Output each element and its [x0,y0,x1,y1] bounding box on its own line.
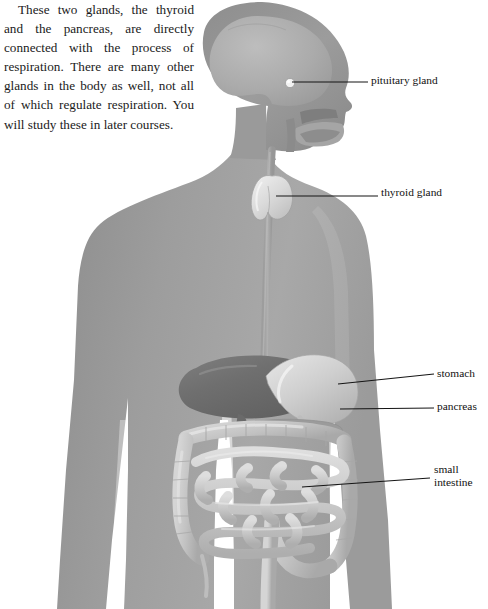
label-stomach: stomach [437,367,475,380]
label-pituitary-gland: pituitary gland [371,74,438,87]
pituitary-gland [285,78,294,87]
label-pancreas: pancreas [437,400,477,413]
body-paragraph: These two glands, the thyroid and the pa… [4,0,194,134]
body-text-column: These two glands, the thyroid and the pa… [4,0,194,134]
label-thyroid-gland: thyroid gland [381,186,442,199]
label-small-intestine: small intestine [434,463,473,488]
pituitary-highlight [287,80,290,83]
head [203,2,352,152]
thyroid-gland [251,176,292,221]
